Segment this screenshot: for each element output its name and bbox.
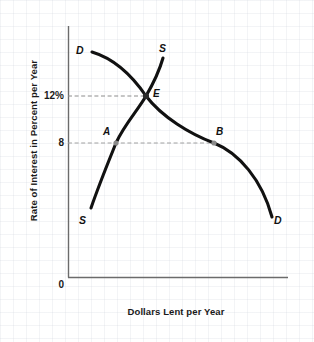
- point-label-e: E: [153, 88, 160, 99]
- point-a-marker: [113, 140, 118, 145]
- supply-curve: [91, 58, 163, 208]
- y-axis-title: Rate of Interest in Percent per Year: [28, 46, 39, 236]
- interest-rate-loanable-funds-chart: 12% 8 0 D S S D E A B Rate of Interest i…: [0, 0, 314, 342]
- demand-curve-label-bottom: D: [274, 214, 282, 226]
- point-b-marker: [211, 140, 216, 145]
- demand-curve-label-top: D: [76, 44, 84, 56]
- origin-label-zero: 0: [24, 279, 64, 290]
- chart-plot-area: [0, 0, 314, 342]
- point-label-a: A: [103, 126, 110, 137]
- point-label-b: B: [216, 126, 223, 137]
- supply-curve-label-bottom: S: [79, 214, 86, 226]
- point-e-marker: [143, 93, 149, 99]
- supply-curve-label-top: S: [159, 42, 166, 54]
- x-axis-title: Dollars Lent per Year: [86, 306, 266, 317]
